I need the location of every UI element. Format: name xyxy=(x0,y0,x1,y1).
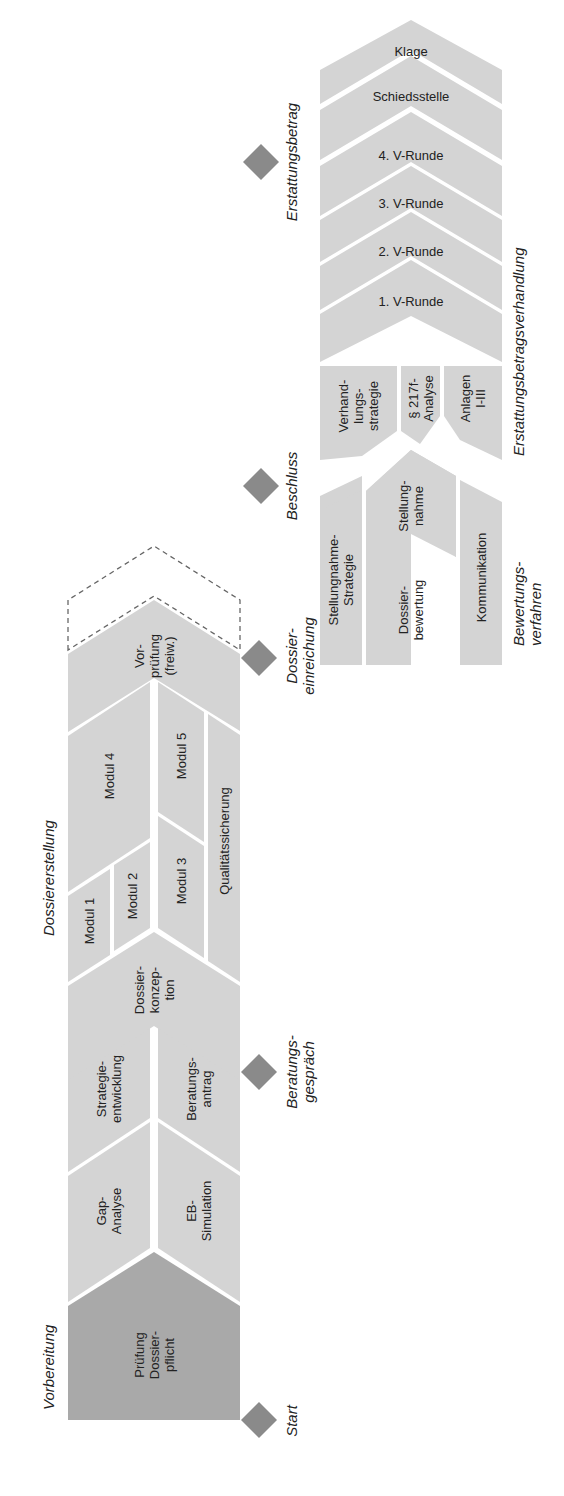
diamond-beschluss-icon xyxy=(243,468,279,504)
milestone-erstattungsbetrag: Erstattungsbetrag xyxy=(283,102,300,222)
label-verhandlungsstrategie: Verhand- lungs- strategie xyxy=(320,361,397,451)
milestone-beratungsgespraech: Beratungs- gespräch xyxy=(283,1032,317,1112)
diamond-dossiereinreichung-icon xyxy=(241,640,277,676)
process-diagram: Vorbereitung Dossiererstellung Bewertung… xyxy=(0,0,564,1496)
label-gap: Gap- Analyse xyxy=(68,1156,150,1266)
diamond-beratungsgespraech-icon xyxy=(241,1054,277,1090)
label-modul4: Modul 4 xyxy=(68,716,150,836)
label-strategie: Strategie- entwicklung xyxy=(68,1034,150,1144)
label-modul3: Modul 3 xyxy=(158,836,204,926)
phase-vorbereitung: Vorbereitung xyxy=(40,1325,57,1410)
label-beratungsantrag: Beratungs- antrag xyxy=(158,1034,240,1144)
label-modul2: Modul 2 xyxy=(114,856,150,936)
label-dossierbewertung: Dossier- bewertung xyxy=(366,555,456,665)
label-kommunikation: Kommunikation xyxy=(460,490,502,665)
milestone-beschluss: Beschluss xyxy=(283,446,300,526)
phase-erstattungsbetragsverhandlung: Erstattungsbetragsverhandlung xyxy=(510,248,527,456)
label-stellungnahme: Stellung- nahme xyxy=(366,461,456,551)
label-pruefung: Prüfung Dossier- pflicht xyxy=(68,1300,240,1410)
label-konzeption: Dossier- konzep- tion xyxy=(68,950,240,1030)
label-vorpruefung: Vor- prüfung (freiw.) xyxy=(68,616,240,696)
diamond-start-icon xyxy=(241,1402,277,1438)
diamond-erstattungsbetrag-icon xyxy=(243,144,279,180)
phase-bewertungsverfahren: Bewertungs- verfahren xyxy=(510,562,544,646)
label-eb-sim: EB- Simulation xyxy=(158,1156,240,1266)
label-analyse217: § 217f- Analyse xyxy=(401,361,441,436)
label-qs: Qualitätssicherung xyxy=(208,726,240,956)
phase-dossiererstellung: Dossiererstellung xyxy=(40,820,57,936)
milestone-dossiereinreichung: Dossier- einreichung xyxy=(283,611,317,701)
label-modul1: Modul 1 xyxy=(68,881,110,961)
label-klage: Klage xyxy=(366,0,456,102)
label-modul5: Modul 5 xyxy=(158,706,204,806)
milestone-start: Start xyxy=(283,1396,300,1446)
label-anlagen: Anlagen I-III xyxy=(444,361,502,436)
label-sn-strategie: Stellungnahme- Strategie xyxy=(320,495,362,665)
